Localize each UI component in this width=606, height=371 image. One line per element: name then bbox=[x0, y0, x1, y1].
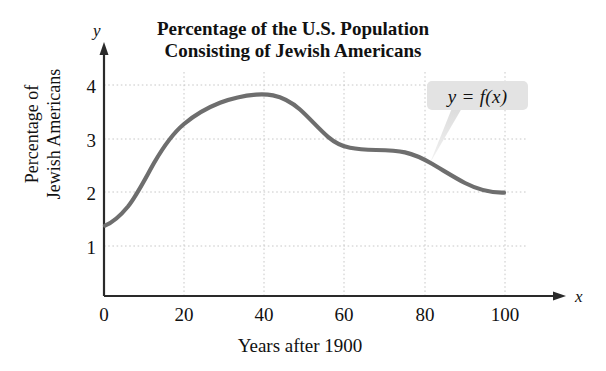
y-tick-label-1: 1 bbox=[74, 237, 96, 259]
y-tick-label-2: 2 bbox=[74, 183, 96, 205]
x-tick-label-0: 0 bbox=[81, 304, 127, 326]
x-tick-label-40: 40 bbox=[241, 304, 287, 326]
x-tick-label-60: 60 bbox=[321, 304, 367, 326]
data-series-fx bbox=[105, 94, 504, 225]
x-tick-label-20: 20 bbox=[161, 304, 207, 326]
function-callout-label: y = f(x) bbox=[427, 86, 528, 108]
y-tick-label-3: 3 bbox=[74, 130, 96, 152]
y-tick-label-4: 4 bbox=[74, 76, 96, 98]
y-axis-arrowhead bbox=[100, 42, 109, 55]
x-axis-arrowhead bbox=[553, 292, 566, 301]
callout-tail bbox=[430, 108, 462, 163]
x-axis-letter: x bbox=[575, 287, 583, 307]
x-tick-label-100: 100 bbox=[482, 304, 528, 326]
chart-figure: Percentage of the U.S. Population Consis… bbox=[0, 0, 606, 371]
y-axis-letter: y bbox=[93, 21, 101, 41]
x-tick-label-80: 80 bbox=[402, 304, 448, 326]
